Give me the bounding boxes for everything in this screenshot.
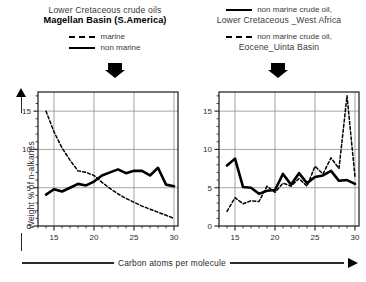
x-axis-arrow-icon bbox=[348, 258, 358, 268]
legend-label-west-africa: non marine crude oil, bbox=[257, 5, 332, 15]
y-tick-label: 5 bbox=[208, 184, 213, 193]
legend-label-non-marine: non marine bbox=[100, 43, 140, 53]
x-tick-label: 25 bbox=[311, 233, 320, 242]
legend-item-west-africa: non marine crude oil, bbox=[196, 5, 362, 15]
chart-magellan-basin: 15202530051015 bbox=[0, 86, 185, 246]
x-axis-label-group: Carbon atoms per molecule bbox=[22, 258, 358, 268]
chart-west-africa-uinta: 15202530051015 bbox=[181, 86, 366, 246]
down-arrow-icon-left bbox=[105, 63, 125, 78]
x-axis-rule-right bbox=[230, 262, 344, 263]
right-title-line1: Lower Cretaceous _West Africa bbox=[196, 15, 362, 25]
right-panel-caption: non marine crude oil, Lower Cretaceous _… bbox=[196, 4, 362, 52]
x-tick-label: 20 bbox=[271, 233, 280, 242]
left-legend: marine non marine bbox=[69, 31, 140, 53]
y-tick-label: 10 bbox=[22, 145, 31, 154]
dashed-line-sample-icon bbox=[226, 36, 252, 38]
y-tick-label: 15 bbox=[203, 107, 212, 116]
x-tick-label: 15 bbox=[231, 233, 240, 242]
legend-label-uinta: non marine crude oil, bbox=[257, 32, 332, 42]
figure-root: Lower Cretaceous crude oils Magellan Bas… bbox=[0, 0, 366, 282]
x-tick-label: 25 bbox=[130, 233, 139, 242]
legend-item-uinta: non marine crude oil, bbox=[196, 32, 362, 42]
series-line-dashed bbox=[46, 111, 174, 218]
x-tick-label: 20 bbox=[90, 233, 99, 242]
x-tick-label: 30 bbox=[170, 233, 179, 242]
x-tick-label: 30 bbox=[351, 233, 360, 242]
left-panel-caption: Lower Cretaceous crude oils Magellan Bas… bbox=[30, 5, 180, 53]
legend-item-marine: marine bbox=[69, 32, 140, 42]
left-title-line1: Lower Cretaceous crude oils bbox=[30, 5, 180, 15]
plot-frame bbox=[38, 92, 178, 226]
y-tick-label: 10 bbox=[203, 145, 212, 154]
y-tick-label: 5 bbox=[27, 184, 32, 193]
y-tick-label: 15 bbox=[22, 107, 31, 116]
chart-svg-right: 15202530051015 bbox=[181, 86, 366, 246]
left-title-line2: Magellan Basin (S.America) bbox=[30, 15, 180, 26]
x-axis-label: Carbon atoms per molecule bbox=[118, 258, 226, 268]
right-title-line2: Eocene_Uinta Basin bbox=[196, 42, 362, 52]
chart-svg-left: 15202530051015 bbox=[0, 86, 185, 246]
legend-item-non-marine: non marine bbox=[69, 43, 140, 53]
x-axis-rule-left bbox=[22, 262, 114, 263]
plot-frame bbox=[219, 92, 359, 226]
series-line-solid bbox=[46, 168, 174, 195]
legend-label-marine: marine bbox=[100, 32, 124, 42]
dashed-line-sample-icon bbox=[69, 36, 95, 38]
series-line-dashed bbox=[227, 96, 355, 212]
y-tick-label: 0 bbox=[208, 222, 213, 231]
y-tick-label: 0 bbox=[27, 222, 32, 231]
solid-line-sample-icon bbox=[69, 47, 95, 49]
down-arrow-icon-right bbox=[268, 63, 288, 78]
x-tick-label: 15 bbox=[50, 233, 59, 242]
solid-line-sample-icon bbox=[226, 9, 252, 11]
